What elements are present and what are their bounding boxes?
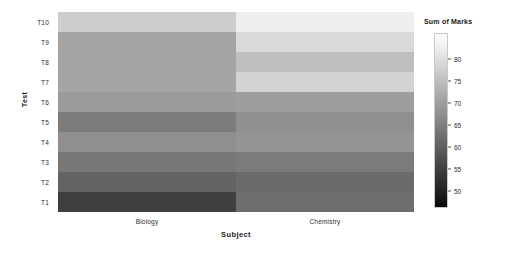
tick-mark-icon [448,146,451,147]
heatmap-cell [236,152,414,172]
x-tick-biology: Biology [58,214,236,228]
colorbar-tick-50: 50 [448,187,461,194]
heatmap-cell [58,132,236,152]
x-axis-title: Subject [58,230,414,239]
colorbar-tick-55: 55 [448,165,461,172]
colorbar-gradient [435,34,447,207]
colorbar-tick-70: 70 [448,100,461,107]
heatmap-cell [58,12,236,32]
y-tick-t5: T5 [0,112,54,132]
x-tick-chemistry: Chemistry [236,214,414,228]
heatmap-cell [236,92,414,112]
colorbar-tick-80: 80 [448,56,461,63]
colorbar-tick-60: 60 [448,143,461,150]
colorbar-tick-label: 55 [454,165,461,172]
y-axis-tick-labels: T10 T9 T8 T7 T6 T5 T4 T3 T2 T1 [0,12,54,212]
colorbar-tick-label: 75 [454,78,461,85]
heatmap-cell [58,72,236,92]
heatmap-cell [236,12,414,32]
y-tick-t1: T1 [0,192,54,212]
heatmap-cell [58,32,236,52]
tick-mark-icon [448,81,451,82]
colorbar-title: Sum of Marks [424,18,472,25]
heatmap-cell [58,192,236,212]
colorbar-tick-label: 80 [454,56,461,63]
tick-mark-icon [448,59,451,60]
y-tick-t6: T6 [0,92,54,112]
heatmap-cell [58,172,236,192]
tick-mark-icon [448,124,451,125]
heatmap-cell [236,72,414,92]
heatmap-cell [236,192,414,212]
colorbar [434,33,448,208]
heatmap-plot-area [58,12,414,212]
y-tick-t3: T3 [0,152,54,172]
heatmap-cell [58,52,236,72]
tick-mark-icon [448,103,451,104]
y-tick-t10: T10 [0,12,54,32]
colorbar-tick-label: 50 [454,187,461,194]
colorbar-tick-65: 65 [448,121,461,128]
colorbar-tick-label: 65 [454,121,461,128]
colorbar-tick-label: 70 [454,100,461,107]
tick-mark-icon [448,190,451,191]
y-tick-t9: T9 [0,32,54,52]
heatmap-figure: Test T10 T9 T8 T7 T6 T5 T4 T3 T2 T1 Biol… [0,0,512,255]
colorbar-tick-75: 75 [448,78,461,85]
tick-mark-icon [448,168,451,169]
y-tick-t8: T8 [0,52,54,72]
heatmap-cell [236,132,414,152]
y-tick-t7: T7 [0,72,54,92]
heatmap-cell [58,152,236,172]
heatmap-cell [58,92,236,112]
heatmap-cell [236,32,414,52]
heatmap-cell [236,52,414,72]
y-tick-t2: T2 [0,172,54,192]
colorbar-tick-labels: 80757065605550 [448,33,488,208]
y-tick-t4: T4 [0,132,54,152]
heatmap-cell [236,112,414,132]
heatmap-cell [58,112,236,132]
x-axis-tick-labels: Biology Chemistry [58,214,414,228]
heatmap-cell [236,172,414,192]
colorbar-tick-label: 60 [454,143,461,150]
